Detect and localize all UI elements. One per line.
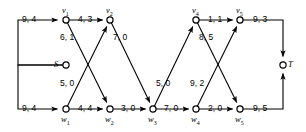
node-label-w5: w5 [235, 115, 244, 126]
edge-label-w3-w4: 7, 0 [164, 104, 178, 113]
node-w3[interactable] [150, 106, 156, 112]
node-label-v1: v1 [62, 6, 69, 17]
edge-label-w5-T: 9, 5 [253, 104, 267, 113]
node-v4[interactable] [193, 17, 199, 23]
edge-label-w4-v5: 9, 2 [190, 79, 204, 88]
flow-network-diagram: 9, 49, 44, 36, 15, 04, 47, 03, 05, 07, 0… [0, 0, 306, 132]
node-label-w2: w2 [105, 115, 114, 126]
edge-label-w2-w3: 3, 0 [121, 104, 135, 113]
edge-label-v5-T: 9, 3 [253, 15, 267, 24]
edge-label-w1-w2: 4, 4 [78, 104, 92, 113]
node-T[interactable] [280, 62, 286, 68]
edge-label-w1-v2: 5, 0 [60, 79, 74, 88]
node-label-v5: v5 [236, 6, 243, 17]
node-label-S: S [54, 60, 58, 69]
node-v2[interactable] [107, 17, 113, 23]
edge-label-v4-w5: 8, 5 [199, 33, 213, 42]
edge-label-v4-v5: 1, 1 [208, 15, 222, 24]
node-v5[interactable] [237, 17, 243, 23]
edge-label-v2-w3: 7, 0 [113, 33, 127, 42]
node-w4[interactable] [193, 106, 199, 112]
node-label-T: T [288, 60, 293, 69]
node-v1[interactable] [63, 17, 69, 23]
node-label-v4: v4 [192, 6, 199, 17]
edge-v5-to-T [243, 20, 283, 57]
node-S[interactable] [63, 62, 69, 68]
edge-w3-to-v4 [154, 27, 192, 107]
node-w1[interactable] [63, 106, 69, 112]
edge-label-w3-v4: 5, 0 [156, 79, 170, 88]
edge-label-v1-v2: 4, 3 [78, 15, 92, 24]
edge-label-S-v1: 9, 4 [22, 15, 36, 24]
node-label-w1: w1 [61, 115, 70, 126]
edge-label-S-w1: 9, 4 [22, 104, 36, 113]
edge-label-w4-w5: 2, 0 [208, 104, 222, 113]
node-w2[interactable] [107, 106, 113, 112]
node-label-v2: v2 [106, 6, 113, 17]
node-w5[interactable] [237, 106, 243, 112]
node-label-w3: w3 [148, 115, 157, 126]
node-label-w4: w4 [191, 115, 200, 126]
edge-label-v1-w2: 6, 1 [60, 33, 74, 42]
